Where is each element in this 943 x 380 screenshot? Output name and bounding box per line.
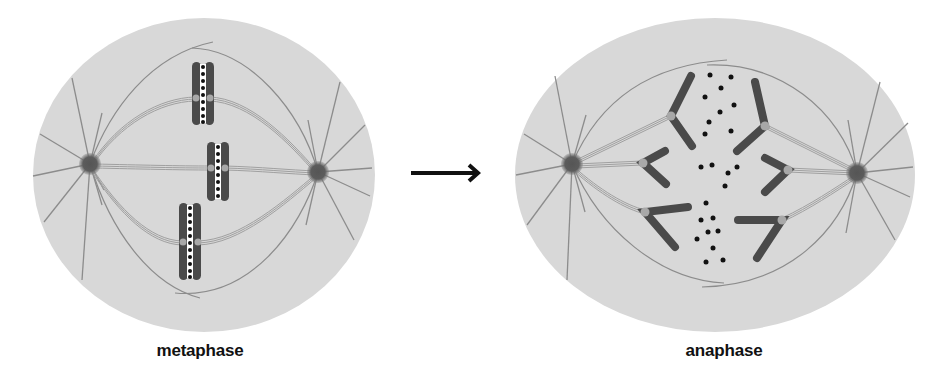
right-arrow-icon: [411, 165, 478, 181]
metaphase-label: metaphase: [156, 341, 243, 361]
kinetochore: [195, 239, 202, 246]
chromosome-bottom: [179, 203, 202, 280]
kinetochore: [222, 165, 229, 172]
centrosome-right: [846, 162, 868, 184]
kinetochore: [208, 165, 215, 172]
centrosome-left: [561, 153, 583, 175]
kinetochore: [180, 239, 187, 246]
centrosome-left: [79, 153, 101, 175]
chromosome-middle: [207, 142, 229, 201]
mitosis-diagram: [0, 0, 943, 380]
chromosome-top: [192, 62, 214, 125]
centrosome-right: [307, 161, 329, 183]
metaphase-cell: [33, 18, 375, 332]
kinetochore: [193, 95, 200, 102]
anaphase-label: anaphase: [686, 341, 763, 361]
kinetochore: [207, 95, 214, 102]
anaphase-cell: [515, 18, 915, 332]
